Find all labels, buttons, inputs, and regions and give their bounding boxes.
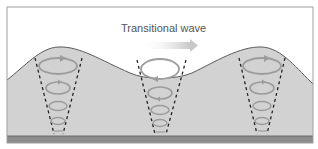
transitional-wave-diagram: Transitional wave — [0, 0, 318, 149]
orbit-1 — [141, 59, 179, 79]
diagram-title: Transitional wave — [121, 22, 206, 34]
seabed — [7, 136, 313, 143]
